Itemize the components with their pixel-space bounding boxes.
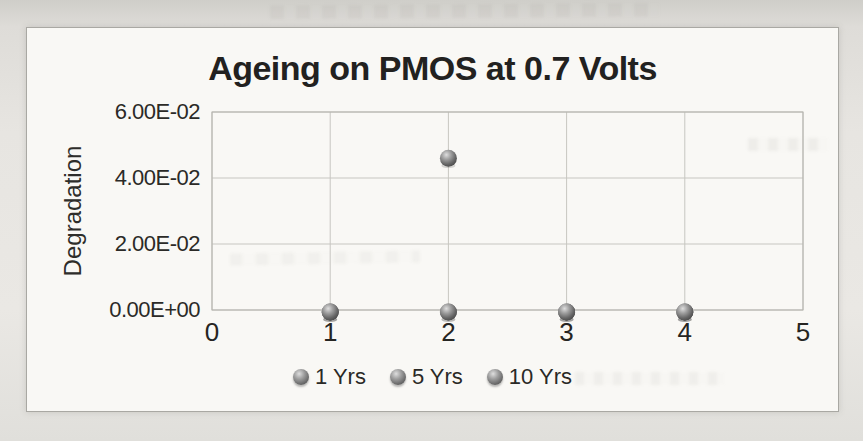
- legend-marker-sphere-icon: [487, 369, 503, 385]
- legend-item-5yrs: 5 Yrs: [390, 364, 463, 390]
- data-point-sphere: [322, 304, 339, 321]
- legend-marker-sphere-icon: [293, 369, 309, 385]
- legend-label: 5 Yrs: [412, 364, 463, 390]
- plot-border: [212, 112, 803, 310]
- data-point-sphere: [558, 304, 575, 321]
- data-point-sphere: [440, 150, 457, 167]
- legend-marker-sphere-icon: [390, 369, 406, 385]
- data-point-sphere: [676, 304, 693, 321]
- legend-label: 1 Yrs: [315, 364, 366, 390]
- legend-item-1yrs: 1 Yrs: [293, 364, 366, 390]
- data-point-sphere: [440, 304, 457, 321]
- legend-label: 10 Yrs: [509, 364, 572, 390]
- legend-item-10yrs: 10 Yrs: [487, 364, 572, 390]
- chart-legend: 1 Yrs 5 Yrs 10 Yrs: [26, 364, 839, 390]
